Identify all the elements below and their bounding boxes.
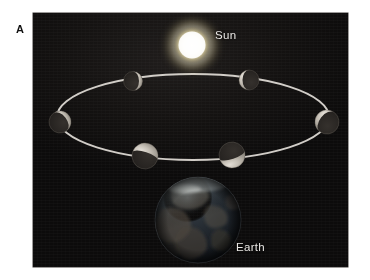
sun-body — [162, 15, 222, 75]
diagram-stage — [33, 13, 348, 267]
sun-label: Sun — [215, 30, 236, 42]
moon-upper-right — [239, 70, 259, 90]
sky-panel: Sun Earth — [33, 13, 348, 267]
moon-upper-left — [124, 72, 143, 91]
earth-body — [154, 176, 244, 263]
moon-orbit-ellipse — [57, 74, 329, 160]
panel-letter-label: A — [16, 24, 24, 35]
figure-a-root: A — [0, 0, 370, 280]
earth-label: Earth — [236, 242, 265, 254]
moon-far-left — [45, 107, 76, 138]
moon-lower-left — [129, 140, 162, 173]
moon-lower-right — [216, 139, 249, 172]
moon-far-right — [310, 105, 344, 139]
